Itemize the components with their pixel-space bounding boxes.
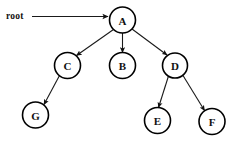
- node-label-a: A: [119, 15, 127, 27]
- node-label-b: B: [119, 60, 127, 72]
- node-label-d: D: [171, 60, 179, 72]
- edge-line: [132, 29, 167, 55]
- tree-diagram-canvas: root ACBDGEF: [0, 0, 246, 152]
- root-label: root: [6, 11, 24, 21]
- node-label-c: C: [64, 60, 72, 72]
- edge-a-to-c: [77, 30, 114, 56]
- edge-line: [159, 76, 169, 108]
- tree-diagram: root ACBDGEF: [0, 0, 246, 152]
- node-g[interactable]: G: [23, 102, 49, 128]
- root-pointer: root: [6, 11, 108, 21]
- edge-line: [77, 30, 114, 56]
- edge-a-to-d: [132, 29, 167, 55]
- node-d[interactable]: D: [163, 53, 188, 78]
- node-e[interactable]: E: [145, 108, 171, 134]
- node-a[interactable]: A: [110, 7, 136, 33]
- node-label-f: F: [209, 116, 216, 128]
- node-label-e: E: [154, 115, 161, 127]
- edge-c-to-g: [44, 76, 60, 105]
- node-c[interactable]: C: [55, 53, 81, 79]
- edge-line: [44, 76, 60, 105]
- edge-line: [183, 76, 205, 111]
- node-label-g: G: [31, 110, 40, 122]
- node-f[interactable]: F: [199, 109, 225, 135]
- nodes-layer: ACBDGEF: [23, 7, 226, 135]
- edge-d-to-f: [183, 76, 205, 111]
- edge-d-to-e: [159, 76, 169, 108]
- node-b[interactable]: B: [110, 53, 136, 79]
